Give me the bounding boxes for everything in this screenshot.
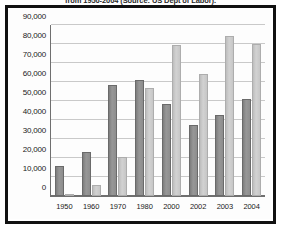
bar-group: 2000	[158, 25, 185, 196]
bar	[189, 125, 198, 196]
bar-groups: 19501960197019802000200220032004	[51, 25, 265, 196]
y-axis-tick-label: 60,000	[23, 69, 46, 78]
bar-group: 2003	[212, 25, 239, 196]
y-axis-tick-label: 20,000	[23, 145, 46, 154]
x-axis-tick-label: 2002	[190, 202, 206, 211]
x-axis-tick-label: 1980	[136, 202, 152, 211]
bar	[82, 152, 91, 196]
bar	[145, 88, 154, 196]
x-axis-tick-label: 2000	[163, 202, 179, 211]
bar	[215, 115, 224, 196]
bar	[55, 166, 64, 196]
chart-frame: 90,00080,00070,00060,00050,00040,00030,0…	[5, 5, 276, 224]
bar-group: 1970	[105, 25, 132, 196]
y-axis-tick-label: 10,000	[23, 164, 46, 173]
y-axis-tick-label: 30,000	[23, 126, 46, 135]
y-axis-tick-label: 70,000	[23, 50, 46, 59]
bar	[242, 99, 251, 196]
bar	[199, 74, 208, 196]
x-axis-tick-label: 1950	[56, 202, 72, 211]
bar	[162, 104, 171, 196]
bar	[92, 185, 101, 196]
bar-group: 1980	[131, 25, 158, 196]
chart-frame-inner: 90,00080,00070,00060,00050,00040,00030,0…	[10, 10, 271, 219]
bar	[65, 194, 74, 196]
x-axis-tick-label: 2004	[243, 202, 259, 211]
bar	[118, 157, 127, 196]
bar	[108, 85, 117, 196]
y-axis-tick-label: 90,000	[23, 12, 46, 21]
bar-group: 1950	[51, 25, 78, 196]
bar-group: 2002	[185, 25, 212, 196]
x-axis-tick-label: 2003	[217, 202, 233, 211]
y-axis-tick-label: 0	[42, 183, 46, 192]
bar-group: 1960	[78, 25, 105, 196]
bar	[252, 44, 261, 196]
bar	[225, 36, 234, 196]
bar-group: 2004	[238, 25, 265, 196]
x-axis-tick-label: 1970	[110, 202, 126, 211]
y-axis-tick-label: 50,000	[23, 88, 46, 97]
y-axis-tick-label: 80,000	[23, 31, 46, 40]
bar	[135, 80, 144, 196]
x-axis-tick-label: 1960	[83, 202, 99, 211]
bar	[172, 45, 181, 196]
chart-figure: from 1950-2004 (Source: US Dept of Labor…	[0, 0, 281, 229]
plot-area: 90,00080,00070,00060,00050,00040,00030,0…	[50, 25, 265, 197]
y-axis-tick-label: 40,000	[23, 107, 46, 116]
